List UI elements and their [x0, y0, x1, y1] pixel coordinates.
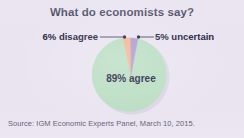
slice-label-uncertain: 5% uncertain — [155, 31, 241, 42]
slice-label-disagree: 6% disagree — [20, 31, 98, 42]
leader-dot-disagree — [123, 35, 126, 38]
pie-chart-graphic — [0, 0, 244, 138]
pie-chart-figure: What do economists say? 6% disagree 5% u… — [0, 0, 244, 138]
source-note: Source: IGM Economic Experts Panel, Marc… — [8, 119, 195, 128]
leader-dot-uncertain — [137, 35, 140, 38]
slice-label-agree: 89% agree — [86, 73, 176, 84]
